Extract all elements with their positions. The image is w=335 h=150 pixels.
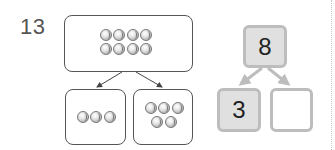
baseball-icon: [77, 111, 89, 123]
baseball-icon: [145, 102, 157, 114]
part-picture-box-right: [133, 89, 193, 145]
baseball-icon: [158, 102, 170, 114]
page-divider: [331, 0, 332, 150]
part-picture-box-left: [65, 89, 126, 145]
bond-arrow-left: [241, 68, 262, 84]
baseball-icon: [90, 111, 102, 123]
baseball-icon: [104, 111, 116, 123]
baseball-icon: [151, 116, 163, 128]
part-left-balls: [74, 111, 118, 123]
baseball-icon: [172, 102, 184, 114]
arrow-right: [136, 72, 162, 87]
bond-whole-box: 8: [243, 25, 287, 68]
baseball-icon: [165, 116, 177, 128]
bond-part-box-left: 3: [217, 88, 261, 132]
bond-part-box-right-answer[interactable]: [270, 88, 313, 132]
part-right-balls: [142, 102, 186, 128]
bond-arrow-right: [268, 68, 288, 84]
arrow-left: [97, 72, 122, 87]
